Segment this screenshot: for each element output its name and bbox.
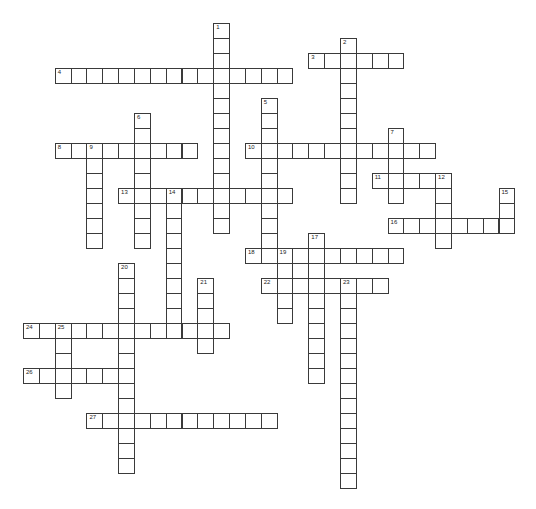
crossword-cell[interactable] bbox=[197, 68, 214, 84]
crossword-cell[interactable] bbox=[340, 188, 357, 204]
crossword-cell[interactable] bbox=[118, 278, 135, 294]
crossword-cell[interactable] bbox=[356, 143, 373, 159]
crossword-cell[interactable] bbox=[71, 368, 88, 384]
crossword-cell[interactable] bbox=[86, 158, 103, 174]
crossword-cell[interactable] bbox=[356, 53, 373, 69]
crossword-cell[interactable] bbox=[150, 413, 167, 429]
crossword-cell[interactable] bbox=[308, 353, 325, 369]
crossword-cell[interactable]: 10 bbox=[245, 143, 262, 159]
crossword-cell[interactable] bbox=[435, 218, 452, 234]
crossword-cell[interactable] bbox=[213, 98, 230, 114]
crossword-cell[interactable] bbox=[197, 308, 214, 324]
crossword-cell[interactable] bbox=[261, 128, 278, 144]
crossword-cell[interactable] bbox=[340, 353, 357, 369]
crossword-cell[interactable] bbox=[166, 233, 183, 249]
crossword-cell[interactable] bbox=[229, 188, 246, 204]
crossword-cell[interactable] bbox=[499, 218, 516, 234]
crossword-cell[interactable] bbox=[340, 368, 357, 384]
crossword-cell[interactable] bbox=[197, 338, 214, 354]
crossword-cell[interactable] bbox=[324, 248, 341, 264]
crossword-cell[interactable] bbox=[340, 338, 357, 354]
crossword-cell[interactable] bbox=[213, 188, 230, 204]
crossword-cell[interactable] bbox=[118, 323, 135, 339]
crossword-cell[interactable] bbox=[213, 113, 230, 129]
crossword-cell[interactable] bbox=[261, 143, 278, 159]
crossword-cell[interactable] bbox=[419, 218, 436, 234]
crossword-cell[interactable] bbox=[166, 143, 183, 159]
crossword-cell[interactable]: 23 bbox=[340, 278, 357, 294]
crossword-cell[interactable] bbox=[388, 143, 405, 159]
crossword-cell[interactable] bbox=[308, 143, 325, 159]
crossword-cell[interactable] bbox=[71, 323, 88, 339]
crossword-cell[interactable] bbox=[118, 458, 135, 474]
crossword-cell[interactable]: 20 bbox=[118, 263, 135, 279]
crossword-cell[interactable] bbox=[166, 323, 183, 339]
crossword-cell[interactable] bbox=[134, 413, 151, 429]
crossword-cell[interactable]: 1 bbox=[213, 23, 230, 39]
crossword-cell[interactable] bbox=[261, 113, 278, 129]
crossword-cell[interactable] bbox=[277, 263, 294, 279]
crossword-cell[interactable] bbox=[308, 248, 325, 264]
crossword-cell[interactable] bbox=[118, 413, 135, 429]
crossword-cell[interactable]: 4 bbox=[55, 68, 72, 84]
crossword-cell[interactable] bbox=[166, 218, 183, 234]
crossword-cell[interactable] bbox=[308, 293, 325, 309]
crossword-cell[interactable] bbox=[292, 278, 309, 294]
crossword-cell[interactable] bbox=[340, 428, 357, 444]
crossword-cell[interactable] bbox=[340, 443, 357, 459]
crossword-cell[interactable] bbox=[118, 443, 135, 459]
crossword-cell[interactable] bbox=[150, 143, 167, 159]
crossword-cell[interactable] bbox=[388, 53, 405, 69]
crossword-cell[interactable]: 21 bbox=[197, 278, 214, 294]
crossword-cell[interactable] bbox=[388, 173, 405, 189]
crossword-cell[interactable] bbox=[292, 143, 309, 159]
crossword-cell[interactable] bbox=[261, 68, 278, 84]
crossword-cell[interactable] bbox=[134, 323, 151, 339]
crossword-cell[interactable] bbox=[213, 128, 230, 144]
crossword-cell[interactable] bbox=[340, 113, 357, 129]
crossword-cell[interactable] bbox=[102, 368, 119, 384]
crossword-cell[interactable]: 3 bbox=[308, 53, 325, 69]
crossword-cell[interactable] bbox=[435, 233, 452, 249]
crossword-cell[interactable]: 25 bbox=[55, 323, 72, 339]
crossword-cell[interactable] bbox=[340, 383, 357, 399]
crossword-cell[interactable] bbox=[356, 248, 373, 264]
crossword-cell[interactable] bbox=[388, 188, 405, 204]
crossword-cell[interactable] bbox=[340, 323, 357, 339]
crossword-cell[interactable] bbox=[261, 218, 278, 234]
crossword-cell[interactable] bbox=[340, 128, 357, 144]
crossword-cell[interactable] bbox=[182, 188, 199, 204]
crossword-cell[interactable]: 22 bbox=[261, 278, 278, 294]
crossword-cell[interactable] bbox=[182, 323, 199, 339]
crossword-cell[interactable] bbox=[388, 248, 405, 264]
crossword-cell[interactable] bbox=[261, 413, 278, 429]
crossword-cell[interactable] bbox=[403, 218, 420, 234]
crossword-cell[interactable] bbox=[86, 323, 103, 339]
crossword-cell[interactable] bbox=[213, 53, 230, 69]
crossword-cell[interactable] bbox=[134, 68, 151, 84]
crossword-cell[interactable]: 18 bbox=[245, 248, 262, 264]
crossword-cell[interactable] bbox=[372, 278, 389, 294]
crossword-cell[interactable] bbox=[245, 413, 262, 429]
crossword-cell[interactable] bbox=[166, 68, 183, 84]
crossword-cell[interactable] bbox=[261, 248, 278, 264]
crossword-cell[interactable]: 12 bbox=[435, 173, 452, 189]
crossword-cell[interactable] bbox=[39, 323, 56, 339]
crossword-cell[interactable]: 2 bbox=[340, 38, 357, 54]
crossword-cell[interactable] bbox=[118, 293, 135, 309]
crossword-cell[interactable] bbox=[261, 158, 278, 174]
crossword-cell[interactable] bbox=[166, 293, 183, 309]
crossword-cell[interactable] bbox=[340, 398, 357, 414]
crossword-cell[interactable]: 14 bbox=[166, 188, 183, 204]
crossword-cell[interactable] bbox=[134, 173, 151, 189]
crossword-cell[interactable] bbox=[102, 413, 119, 429]
crossword-cell[interactable] bbox=[166, 263, 183, 279]
crossword-cell[interactable] bbox=[213, 203, 230, 219]
crossword-cell[interactable] bbox=[55, 383, 72, 399]
crossword-cell[interactable]: 6 bbox=[134, 113, 151, 129]
crossword-cell[interactable] bbox=[372, 248, 389, 264]
crossword-cell[interactable] bbox=[118, 398, 135, 414]
crossword-cell[interactable] bbox=[277, 308, 294, 324]
crossword-cell[interactable] bbox=[150, 68, 167, 84]
crossword-cell[interactable] bbox=[451, 218, 468, 234]
